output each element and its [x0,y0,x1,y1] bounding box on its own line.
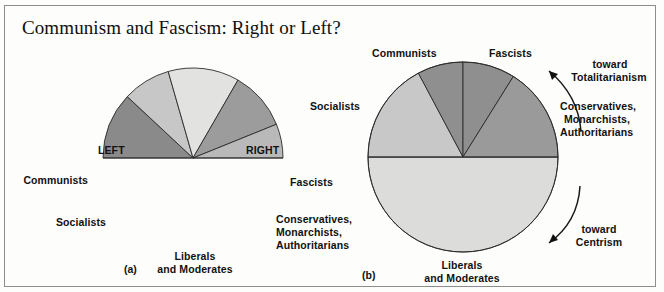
figure-root: Communism and Fascism: Right or Left? LE… [0,0,664,292]
annotation-toward-centrism-line1: toward [556,223,642,236]
panel-b-label-conservatives-line2: Monarchists, [564,113,630,126]
panel-b-label-communists: Communists [372,47,437,60]
panel-b-label-liberals-line2: and Moderates [402,272,522,285]
annotation-toward-centrism-line2: Centrism [552,236,646,249]
panel-b-label-conservatives-line1: Conservatives, [560,100,636,113]
panel-b-label-fascists: Fascists [489,47,532,60]
annotation-toward-totalitarianism-line1: toward [556,58,664,71]
panel-b-id: (b) [362,269,375,281]
panel-b-label-socialists: Socialists [280,100,360,113]
wedge-b-liberals[interactable] [368,157,558,252]
panel-b-label-conservatives-line3: Authoritarians [560,126,633,139]
panel-b-label-liberals-line1: Liberals [412,259,512,272]
annotation-toward-totalitarianism-line2: Totalitarianism [550,71,664,84]
